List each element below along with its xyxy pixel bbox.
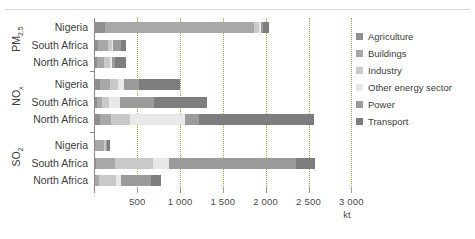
x-tick-1500 (223, 188, 224, 193)
category-label: Nigeria (2, 79, 88, 90)
legend-swatch-icon (356, 84, 363, 91)
legend-label: Power (368, 99, 395, 110)
legend-item-agriculture[interactable]: Agriculture (356, 28, 452, 45)
legend-label: Other energy sector (368, 82, 452, 93)
x-tick-1000 (180, 188, 181, 193)
legend-item-other-energy-sector[interactable]: Other energy sector (356, 79, 452, 96)
legend-item-buildings[interactable]: Buildings (356, 45, 452, 62)
category-label: South Africa (2, 40, 88, 51)
bar-segment-transport[interactable] (121, 40, 126, 51)
gridline-3000 (351, 18, 352, 192)
bar-segment-transport[interactable] (199, 114, 314, 125)
legend-item-industry[interactable]: Industry (356, 62, 452, 79)
x-axis-unit-label: kt (343, 209, 350, 220)
x-tick-label-1500: 1 500 (200, 196, 246, 207)
legend-label: Buildings (368, 48, 407, 59)
bar-segment-power[interactable] (185, 114, 199, 125)
legend-swatch-icon (356, 101, 363, 108)
x-tick-3000 (351, 188, 352, 193)
bar-segment-transport[interactable] (151, 175, 161, 186)
bar-segment-transport[interactable] (115, 57, 126, 68)
category-label: Nigeria (2, 140, 88, 151)
bar-segment-transport[interactable] (139, 79, 180, 90)
bar-segment-power[interactable] (124, 79, 139, 90)
bar-segment-power[interactable] (120, 97, 154, 108)
bar-segment-buildings[interactable] (96, 158, 115, 169)
category-label: North Africa (2, 114, 88, 125)
bar-segment-buildings[interactable] (95, 140, 104, 151)
bar-segment-buildings[interactable] (100, 79, 110, 90)
bar-segment-buildings[interactable] (100, 114, 111, 125)
x-tick-label-500: 500 (114, 196, 160, 207)
category-label: North Africa (2, 57, 88, 68)
bar-segment-other-energy-sector[interactable] (153, 158, 169, 169)
category-label: Nigeria (2, 22, 88, 33)
bar-segment-industry[interactable] (110, 79, 119, 90)
chart-legend: AgricultureBuildingsIndustryOther energy… (356, 28, 452, 130)
x-tick-label-2500: 2 500 (286, 196, 332, 207)
legend-item-power[interactable]: Power (356, 96, 452, 113)
x-tick-label-1000: 1 000 (157, 196, 203, 207)
bar-segment-industry[interactable] (111, 114, 131, 125)
bar-segment-industry[interactable] (99, 175, 116, 186)
x-tick-label-3000: 3 000 (328, 196, 374, 207)
legend-swatch-icon (356, 50, 363, 57)
category-label: South Africa (2, 158, 88, 169)
bar-segment-industry[interactable] (115, 158, 154, 169)
category-label: North Africa (2, 175, 88, 186)
x-axis-origin-tick (94, 188, 95, 193)
bar-segment-transport[interactable] (154, 97, 207, 108)
bar-segment-transport[interactable] (296, 158, 316, 169)
x-tick-label-2000: 2 000 (243, 196, 289, 207)
y-axis-group-tick (90, 132, 94, 133)
x-tick-500 (137, 188, 138, 193)
legend-label: Transport (368, 116, 408, 127)
x-tick-2000 (266, 188, 267, 193)
bar-segment-transport[interactable] (263, 22, 269, 33)
bar-segment-power[interactable] (121, 175, 151, 186)
legend-swatch-icon (356, 67, 363, 74)
category-label: South Africa (2, 97, 88, 108)
top-divider (5, 9, 470, 10)
bar-segment-other-energy-sector[interactable] (130, 114, 185, 125)
bar-segment-power[interactable] (169, 158, 296, 169)
legend-label: Agriculture (368, 31, 413, 42)
legend-swatch-icon (356, 33, 363, 40)
x-tick-2500 (309, 188, 310, 193)
y-axis-group-tick (90, 71, 94, 72)
legend-label: Industry (368, 65, 402, 76)
bar-segment-agriculture[interactable] (95, 22, 105, 33)
bar-segment-other-energy-sector[interactable] (109, 97, 120, 108)
bar-segment-industry[interactable] (102, 97, 109, 108)
legend-item-transport[interactable]: Transport (356, 113, 452, 130)
bar-segment-buildings[interactable] (105, 22, 254, 33)
bar-segment-power[interactable] (113, 40, 121, 51)
bar-segment-buildings[interactable] (98, 40, 108, 51)
bar-segment-transport[interactable] (107, 140, 110, 151)
legend-swatch-icon (356, 118, 363, 125)
emissions-stacked-bar-chart: 5001 0001 5002 0002 5003 000 kt PM2.5Nig… (0, 0, 475, 239)
